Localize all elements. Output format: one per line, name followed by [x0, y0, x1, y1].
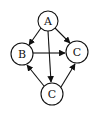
node-c-bottom-label: C [48, 88, 56, 101]
graph-diagram: A B C C [0, 0, 98, 114]
node-b-label: B [18, 48, 26, 61]
node-c-bottom: C [41, 83, 63, 105]
edge-a-to-b [29, 28, 41, 45]
edge-a-to-c-bottom [48, 31, 51, 82]
node-c-right-label: C [73, 46, 81, 59]
node-c-right: C [66, 41, 88, 63]
node-a: A [38, 11, 58, 31]
edge-a-to-c-right [55, 28, 70, 43]
edge-c-bottom-to-b [27, 65, 44, 86]
node-a-label: A [43, 15, 53, 28]
edge-c-bottom-to-c-right [61, 64, 75, 87]
node-b: B [11, 43, 33, 65]
